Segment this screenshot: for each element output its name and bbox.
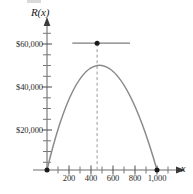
- vertex-point: [95, 41, 100, 46]
- y-tick-label-40000: $40,000: [1, 82, 43, 92]
- y-tick-label-20000: $20,000: [1, 125, 43, 135]
- plot-canvas: [0, 0, 193, 194]
- x-tick-label-1000: 1,000: [142, 173, 172, 183]
- origin-point: [45, 168, 50, 173]
- revenue-curve: [47, 65, 157, 170]
- y-axis-label: R(x): [31, 6, 49, 18]
- y-tick-label-60000: $60,000: [1, 39, 43, 49]
- y-axis: [44, 17, 51, 172]
- x-axis-label: x: [181, 163, 185, 174]
- right-root-point: [155, 168, 160, 173]
- revenue-parabola-figure: R(x) x $60,000 $40,000 $20,000 200 400 6…: [0, 0, 193, 194]
